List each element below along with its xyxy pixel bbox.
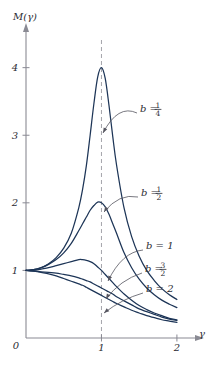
curve-label-text: b = 2 — [146, 283, 174, 294]
y-tick-label: 3 — [12, 130, 18, 141]
figure-magnification-factor: 1234 12 0 M(γ) γ b =14b =12b = 1b =32b =… — [0, 0, 210, 377]
x-axis-label: γ — [199, 328, 205, 339]
origin-label: 0 — [13, 340, 20, 351]
curve-label-text: b = 1 — [146, 240, 174, 251]
fraction-denominator: 2 — [161, 269, 166, 278]
y-tick-label: 4 — [11, 62, 18, 73]
curve-label-b-one: b = 1 — [146, 240, 174, 251]
y-axis-label: M(γ) — [12, 11, 37, 22]
y-tick-label: 2 — [11, 197, 18, 208]
y-tick-label: 1 — [12, 265, 18, 276]
plot-background — [0, 0, 210, 377]
fraction-denominator: 2 — [157, 193, 162, 202]
x-tick-label: 2 — [173, 342, 180, 353]
fraction-denominator: 4 — [156, 109, 161, 118]
x-tick-label: 1 — [98, 342, 104, 353]
curve-label-b-two: b = 2 — [146, 283, 174, 294]
plot-canvas: 1234 12 0 M(γ) γ b =14b =12b = 1b =32b =… — [0, 0, 210, 377]
caption-strip — [0, 367, 210, 377]
